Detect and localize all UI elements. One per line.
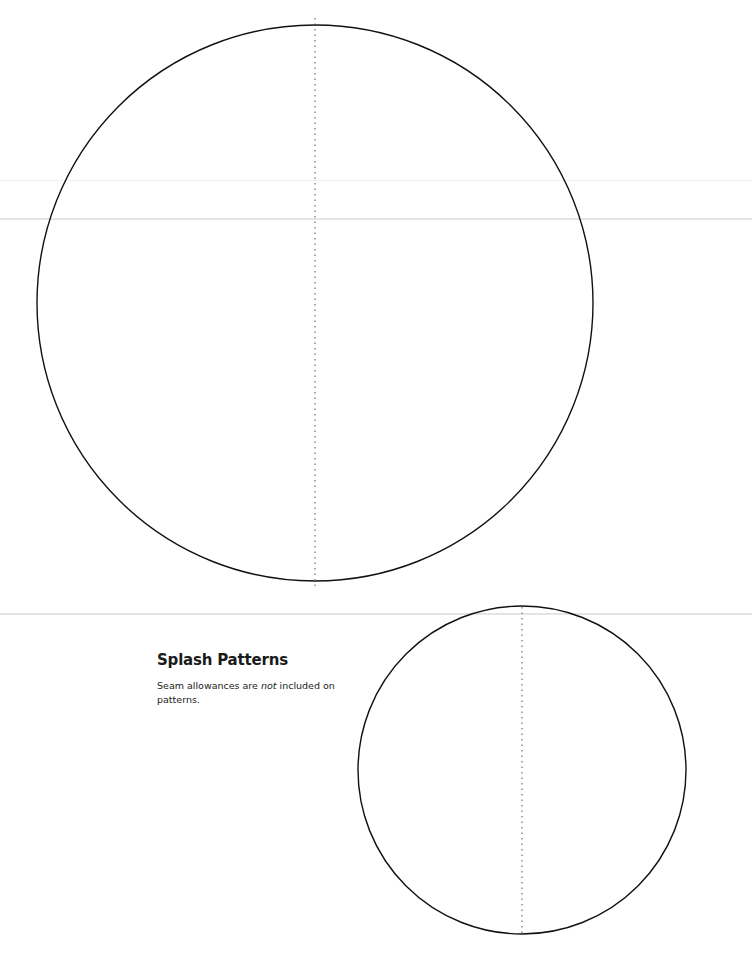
pattern-title-block: Splash Patterns Seam allowances are not …	[157, 651, 357, 707]
note-emphasis: not	[261, 680, 277, 691]
pattern-canvas	[0, 0, 752, 954]
seam-allowance-note: Seam allowances are not included on patt…	[157, 679, 357, 707]
document-title: Splash Patterns	[157, 651, 357, 669]
large-circle-pattern	[37, 18, 593, 588]
note-text-start: Seam allowances are	[157, 680, 261, 691]
small-circle-pattern	[358, 606, 686, 934]
